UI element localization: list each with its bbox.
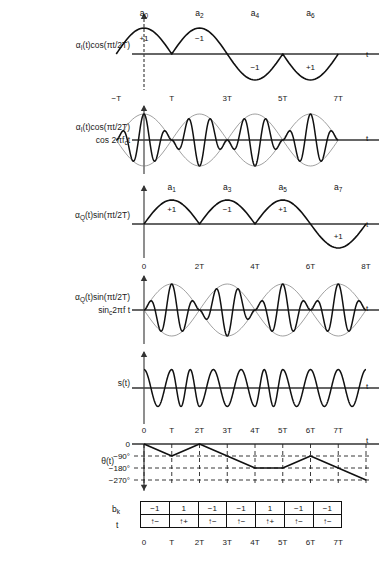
tick-label: 0 (142, 262, 146, 271)
bk-cell: −1 (198, 502, 227, 515)
tick-label: T (169, 94, 174, 103)
bk-cell: −1 (313, 502, 342, 515)
plot-row-s: s(t) t 0T2T3T4T5T6T7T (0, 352, 375, 434)
transition-cell: ↑− (284, 515, 313, 528)
transition-cell: ↑− (227, 515, 256, 528)
plot-row-phase: θ(t) t 0−90°−180°−270° (0, 436, 375, 498)
row-label-q-baseband: αQ(t)sin(πt/2T) (4, 210, 130, 223)
plot-row-i-carrier: αI(t)cos(πt/2T)cos 2πfct t (0, 104, 375, 176)
axis-label-t-row3: t (366, 220, 368, 229)
waveform-svg-i-baseband (134, 8, 379, 98)
tick-label: 2T (195, 426, 204, 435)
symbol-label: a2 (195, 8, 203, 19)
transition-cell: ↑− (198, 515, 227, 528)
row-label-s: s(t) (4, 378, 130, 389)
tick-label: 4T (250, 538, 259, 547)
tick-label: 0 (142, 538, 146, 547)
tick-label: 0 (142, 426, 146, 435)
waveform-svg-q-baseband (134, 182, 379, 268)
transition-cell: ↑+ (169, 515, 198, 528)
table-row-bk: −11−1−11−1−1 (141, 502, 342, 515)
tick-label: 3T (223, 94, 232, 103)
plot-row-q-carrier: αQ(t)sin(πt/2T)sinc2πf t t (0, 274, 375, 346)
waveform-svg-q-carrier (134, 274, 379, 346)
plot-row-q-baseband: αQ(t)sin(πt/2T) t a1+1a3−1a5+1a7+102T4T6… (0, 182, 375, 268)
tick-label: 7T (334, 426, 343, 435)
symbol-label: a4 (251, 8, 259, 19)
symbol-value: −1 (223, 205, 232, 214)
symbol-value: +1 (278, 205, 287, 214)
symbol-value: +1 (334, 232, 343, 241)
bit-table-block: bk t −11−1−11−1−1↑−↑+↑−↑−↑+↑−↑− 0T2T3T4T… (0, 500, 375, 572)
tick-label: 5T (278, 94, 287, 103)
waveform-svg-phase (134, 436, 379, 498)
tick-label: T (169, 538, 174, 547)
bk-cell: −1 (284, 502, 313, 515)
phase-axis-label: −270° (96, 476, 130, 485)
transition-cell: ↑− (141, 515, 170, 528)
symbol-label: a1 (168, 182, 176, 193)
tick-label: 4T (250, 426, 259, 435)
axis-label-t-row1: t (366, 50, 368, 59)
waveform-svg-i-carrier (134, 104, 379, 176)
tick-label: 3T (223, 426, 232, 435)
symbol-value: +1 (167, 205, 176, 214)
tick-label: 5T (278, 426, 287, 435)
symbol-value: −1 (195, 34, 204, 43)
row-label-i-carrier: αI(t)cos(πt/2T)cos 2πfct (4, 122, 130, 148)
tick-label: 8T (361, 262, 370, 271)
symbol-value: +1 (139, 34, 148, 43)
tick-label: −T (111, 94, 121, 103)
bit-table: −11−1−11−1−1↑−↑+↑−↑−↑+↑−↑− (140, 501, 342, 528)
plot-row-i-baseband: αI(t)cos(πt/2T) t a0+1a2−1a4−1a6+1−TT3T5… (0, 8, 375, 98)
tick-label: 3T (223, 538, 232, 547)
symbol-value: −1 (250, 63, 259, 72)
axis-label-t-row2: t (366, 134, 368, 143)
bk-cell: −1 (141, 502, 170, 515)
symbol-label: a3 (223, 182, 231, 193)
transition-cell: ↑− (313, 515, 342, 528)
transition-cell: ↑+ (256, 515, 285, 528)
tick-label: 5T (278, 538, 287, 547)
symbol-label: a0 (140, 8, 148, 19)
tick-label: 6T (306, 538, 315, 547)
axis-label-t-row6: t (366, 436, 368, 445)
tick-label: 4T (250, 262, 259, 271)
symbol-label: a6 (306, 8, 314, 19)
tick-label: T (169, 426, 174, 435)
bk-cell: −1 (227, 502, 256, 515)
table-row-transitions: ↑−↑+↑−↑−↑+↑−↑− (141, 515, 342, 528)
phase-axis-label: −90° (96, 452, 130, 461)
tick-label: 6T (306, 426, 315, 435)
symbol-label: a5 (279, 182, 287, 193)
symbol-label: a7 (334, 182, 342, 193)
row-label-q-carrier: αQ(t)sin(πt/2T)sinc2πf t (4, 292, 130, 318)
phase-axis-label: −180° (96, 464, 130, 473)
axis-label-t-row4: t (366, 304, 368, 313)
bk-cell: 1 (256, 502, 285, 515)
tick-label: 7T (334, 538, 343, 547)
bit-table-row-label-bk: bk (112, 504, 120, 515)
bit-table-tick-row: 0T2T3T4T5T6T7T (134, 538, 379, 550)
bit-table-row-label-t: t (116, 520, 118, 530)
tick-label: 6T (306, 262, 315, 271)
tick-label: 2T (195, 538, 204, 547)
axis-label-t-row5: t (366, 382, 368, 391)
tick-label: 7T (334, 94, 343, 103)
waveform-svg-s (134, 352, 379, 424)
symbol-value: +1 (306, 63, 315, 72)
bk-cell: 1 (169, 502, 198, 515)
phase-axis-label: 0 (96, 440, 130, 449)
tick-label: 2T (195, 262, 204, 271)
row-label-i-baseband: αI(t)cos(πt/2T) (4, 40, 130, 53)
